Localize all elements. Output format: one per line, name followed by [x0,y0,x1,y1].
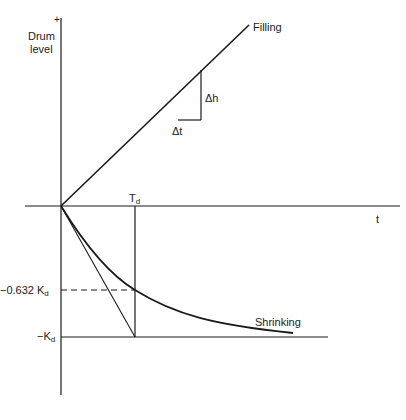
delta-t-label: Δt [172,125,182,137]
minus-kd-label: −Kd [37,330,55,344]
y-axis-label-level: level [30,43,53,55]
y-axis-label-drum: Drum [28,30,55,42]
filling-line [61,25,249,206]
delta-h-label: Δh [205,92,218,104]
drum-level-diagram: + Drum level t Filling Δh Δt Td −Kd −0.6… [0,0,406,420]
level-0632-label: −0.632 Kd [0,284,49,298]
shrinking-label: Shrinking [255,316,301,328]
y-axis-plus-marker: + [54,14,60,25]
initial-tangent-line [61,206,135,337]
x-axis-label-t: t [376,213,379,225]
filling-label: Filling [253,21,282,33]
time-constant-label: Td [129,192,140,206]
shrinking-curve [61,206,293,333]
